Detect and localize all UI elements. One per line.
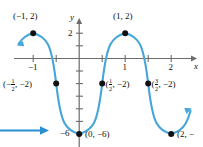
point-threehalf-neg2 [145,81,151,87]
paren-close-neg2: , −2) [15,79,32,89]
point-label-half-neg2: (12, −2) [106,78,130,93]
point-half-neg2 [99,81,105,87]
point-label-threehalf-neg2: (32, −2) [152,78,176,93]
paren-open-neg: (− [3,79,11,89]
paren-close-neg2: , −2) [158,79,175,89]
y-tick-label-2: 2 [68,29,73,38]
pointer-arrow-icon [0,126,49,134]
point-2-neg6 [168,131,174,137]
point-label-neg1-2: (−1, 2) [13,12,38,21]
point-neg1-2 [30,30,36,36]
y-tick-label-neg6: −6 [60,129,70,138]
graph-canvas [0,0,203,147]
x-tick-label-1: 1 [123,63,128,72]
x-axis-label: x [194,62,198,71]
point-neghalf-neg2 [53,81,59,87]
y-axis [76,18,82,147]
paren-close-neg2: , −2) [112,79,129,89]
point-label-1-2: (1, 2) [113,12,133,21]
point-0-neg6 [76,131,82,137]
point-label-2-neg6-truncated: (2, − [177,130,194,139]
y-axis-label: y [70,13,74,22]
point-1-2 [122,30,128,36]
x-tick-label-2: 2 [169,63,174,72]
point-label-0-neg6: (0, −6) [85,130,110,139]
point-label-neghalf-neg2: (−12, −2) [3,78,32,93]
x-tick-label-neg1: −1 [28,63,38,72]
